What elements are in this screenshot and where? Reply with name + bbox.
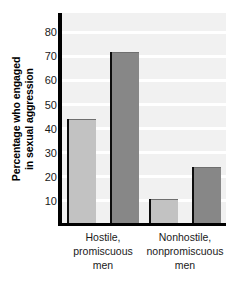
y-axis-title-line-1: Percentage who engaged [10, 57, 23, 181]
gridline-50 [62, 103, 226, 106]
x-category-label-line: nonpromiscuous [136, 244, 234, 258]
y-tick-label-80: 80 [37, 27, 57, 38]
y-tick-label-10: 10 [37, 195, 57, 206]
bar-chart: Percentage who engaged in sexual aggress… [0, 0, 238, 283]
x-category-label-2: Nonhostile,nonpromiscuousmen [136, 230, 234, 272]
y-tick-label-40: 40 [37, 123, 57, 134]
bar-fill [110, 52, 139, 225]
y-tick-label-20: 20 [37, 171, 57, 182]
bar-top-edge [149, 199, 178, 200]
bar-left-edge [192, 167, 194, 225]
bar-left-edge [67, 119, 69, 225]
x-category-label-line: men [136, 258, 234, 272]
y-axis-line [58, 13, 62, 226]
y-tick-label-50: 50 [37, 99, 57, 110]
gridline-60 [62, 79, 226, 82]
bar-top-edge [110, 52, 139, 53]
bar-fill [192, 167, 221, 225]
bar-fill [149, 199, 178, 226]
bar-left-edge [110, 52, 112, 225]
bar-dark-bar-group-1 [110, 52, 139, 225]
x-category-label-line: Nonhostile, [136, 230, 234, 244]
bar-dark-bar-group-2 [192, 167, 221, 225]
bar-top-edge [67, 119, 96, 120]
gridline-70 [62, 55, 226, 58]
x-axis-category-labels: Hostile,promiscuousmenNonhostile,nonprom… [62, 230, 226, 280]
y-axis-title-line-2: in sexual aggression [23, 57, 36, 181]
gridline-80 [62, 31, 226, 34]
bar-left-edge [149, 199, 151, 226]
x-axis-line [58, 223, 226, 226]
bar-top-edge [192, 167, 221, 168]
y-tick-label-70: 70 [37, 51, 57, 62]
bar-light-bar-group-1 [67, 119, 96, 225]
y-axis-title: Percentage who engaged in sexual aggress… [6, 13, 40, 225]
bar-light-bar-group-2 [149, 199, 178, 226]
y-tick-label-60: 60 [37, 75, 57, 86]
y-tick-label-30: 30 [37, 147, 57, 158]
plot-area [62, 13, 226, 225]
bar-fill [67, 119, 96, 225]
